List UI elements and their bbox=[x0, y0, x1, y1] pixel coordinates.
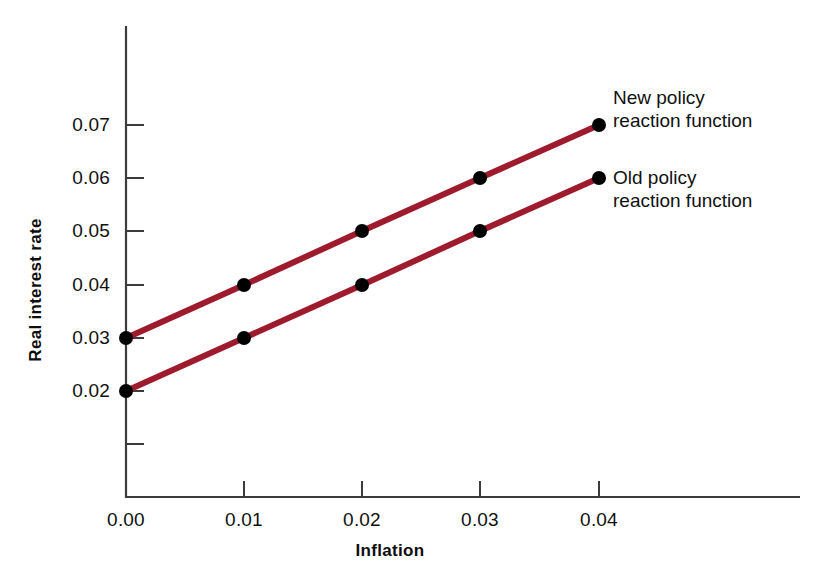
series-label-new-policy-line2: reaction function bbox=[613, 109, 752, 132]
xtick-label-0: 0.00 bbox=[107, 509, 145, 531]
ytick-label-3: 0.04 bbox=[38, 274, 110, 296]
y-axis-title: Real interest rate bbox=[26, 218, 46, 361]
series-label-old-policy-line2: reaction function bbox=[613, 189, 752, 212]
series-label-old-policy: Old policy reaction function bbox=[613, 166, 752, 212]
xtick-label-4: 0.04 bbox=[580, 509, 618, 531]
xtick-label-1: 0.01 bbox=[225, 509, 263, 531]
ytick-label-1: 0.06 bbox=[38, 167, 110, 189]
x-axis-ticks bbox=[126, 481, 599, 497]
xtick-label-3: 0.03 bbox=[461, 509, 499, 531]
ytick-label-4: 0.03 bbox=[38, 327, 110, 349]
series-label-old-policy-line1: Old policy bbox=[613, 166, 752, 189]
series-label-new-policy-line1: New policy bbox=[613, 86, 752, 109]
xtick-label-2: 0.02 bbox=[343, 509, 381, 531]
ytick-label-2: 0.05 bbox=[38, 220, 110, 242]
ytick-label-5: 0.02 bbox=[38, 380, 110, 402]
ytick-label-0: 0.07 bbox=[38, 114, 110, 136]
series-label-new-policy: New policy reaction function bbox=[613, 86, 752, 132]
chart-figure: 0.07 0.06 0.05 0.04 0.03 0.02 0.00 0.01 … bbox=[0, 0, 813, 585]
x-axis-title: Inflation bbox=[356, 541, 425, 561]
